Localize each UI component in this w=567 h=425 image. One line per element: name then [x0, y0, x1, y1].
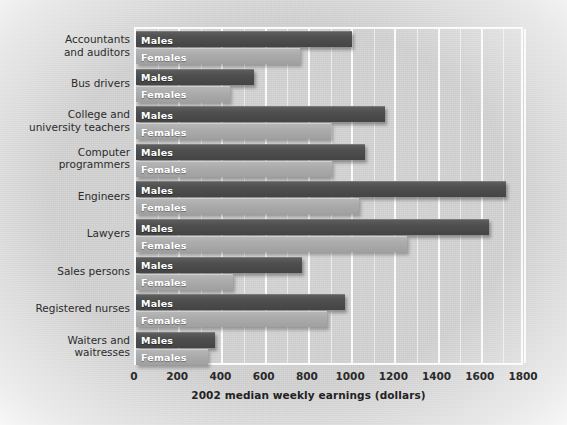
bar-rect-male: Males: [136, 144, 365, 160]
y-axis-label-2: College anduniversity teachers: [2, 108, 130, 133]
x-axis-title: 2002 median weekly earnings (dollars): [0, 389, 567, 401]
bar-series-label: Males: [141, 72, 173, 83]
y-axis-label-line: Accountants: [2, 33, 130, 46]
bar-series-label: Males: [141, 222, 173, 233]
bar-male: Males: [136, 181, 506, 197]
bar-rect-female: Females: [136, 236, 407, 252]
y-axis-label-line: Bus drivers: [2, 77, 130, 90]
x-axis-title-text: 2002 median weekly earnings (dollars): [191, 389, 425, 401]
chart-figure: Accountantsand auditorsBus driversColleg…: [0, 0, 567, 425]
bar-series-label: Males: [141, 109, 173, 120]
bar-series-label: Females: [141, 51, 187, 62]
y-axis-category-labels: Accountantsand auditorsBus driversColleg…: [0, 27, 130, 365]
bar-male: Males: [136, 106, 385, 122]
y-axis-label-line: waitresses: [2, 346, 130, 359]
x-tick-1200: 1200: [379, 370, 408, 382]
plot-area: MalesFemalesMalesFemalesMalesFemalesMale…: [134, 27, 523, 365]
bar-rect-male: Males: [136, 31, 352, 47]
y-axis-label-8: Waiters andwaitresses: [2, 334, 130, 359]
bar-group: MalesFemales: [136, 254, 521, 292]
bar-female: Females: [136, 86, 230, 102]
gridline-major: [524, 29, 526, 363]
bar-female: Females: [136, 311, 327, 327]
bar-series-label: Males: [141, 297, 173, 308]
bar-series-label: Females: [141, 89, 187, 100]
x-axis-tick-labels: 020040060080010001200140016001800: [0, 370, 567, 386]
bar-rect-male: Males: [136, 294, 345, 310]
bar-male: Males: [136, 69, 254, 85]
bar-female: Females: [136, 236, 407, 252]
bar-rect-male: Males: [136, 332, 215, 348]
bar-group: MalesFemales: [136, 217, 521, 255]
y-axis-label-line: Sales persons: [2, 265, 130, 278]
y-axis-label-line: university teachers: [2, 121, 130, 134]
bar-rect-male: Males: [136, 219, 489, 235]
y-axis-label-4: Engineers: [2, 190, 130, 203]
bar-rect-female: Females: [136, 274, 233, 290]
bar-female: Females: [136, 48, 300, 64]
bar-female: Females: [136, 161, 332, 177]
bar-rect-female: Females: [136, 48, 300, 64]
bar-series-label: Females: [141, 352, 187, 363]
bar-group: MalesFemales: [136, 329, 521, 367]
y-axis-label-7: Registered nurses: [2, 302, 130, 315]
bar-group: MalesFemales: [136, 142, 521, 180]
bar-male: Males: [136, 294, 345, 310]
bar-series-label: Females: [141, 314, 187, 325]
bar-female: Females: [136, 198, 359, 214]
bar-rect-male: Males: [136, 106, 385, 122]
bar-group: MalesFemales: [136, 292, 521, 330]
y-axis-label-line: Registered nurses: [2, 302, 130, 315]
x-tick-400: 400: [209, 370, 231, 382]
y-axis-label-line: Waiters and: [2, 334, 130, 347]
bar-female: Females: [136, 349, 208, 365]
bar-series-label: Females: [141, 201, 187, 212]
y-axis-label-5: Lawyers: [2, 227, 130, 240]
y-axis-label-line: College and: [2, 108, 130, 121]
y-axis-label-line: Engineers: [2, 190, 130, 203]
bar-series-label: Females: [141, 126, 187, 137]
bar-rect-male: Males: [136, 257, 302, 273]
y-axis-label-1: Bus drivers: [2, 77, 130, 90]
y-axis-label-6: Sales persons: [2, 265, 130, 278]
bar-series-label: Males: [141, 184, 173, 195]
bar-male: Males: [136, 31, 352, 47]
x-tick-1400: 1400: [422, 370, 451, 382]
y-axis-label-line: Computer: [2, 146, 130, 159]
x-tick-1000: 1000: [335, 370, 364, 382]
bar-male: Males: [136, 332, 215, 348]
x-tick-600: 600: [253, 370, 275, 382]
x-tick-800: 800: [296, 370, 318, 382]
bar-male: Males: [136, 257, 302, 273]
y-axis-label-line: programmers: [2, 158, 130, 171]
x-tick-1800: 1800: [508, 370, 537, 382]
x-tick-1600: 1600: [465, 370, 494, 382]
y-axis-label-0: Accountantsand auditors: [2, 33, 130, 58]
bar-group: MalesFemales: [136, 104, 521, 142]
bar-group: MalesFemales: [136, 179, 521, 217]
bar-rect-female: Females: [136, 123, 331, 139]
bar-rect-male: Males: [136, 69, 254, 85]
bar-group: MalesFemales: [136, 29, 521, 67]
bar-series-label: Males: [141, 147, 173, 158]
bar-series-label: Males: [141, 260, 173, 271]
bar-rect-female: Females: [136, 198, 359, 214]
bar-rect-female: Females: [136, 349, 208, 365]
x-tick-200: 200: [166, 370, 188, 382]
bar-series-label: Females: [141, 164, 187, 175]
bar-series-label: Males: [141, 34, 173, 45]
bar-rect-male: Males: [136, 181, 506, 197]
x-tick-0: 0: [130, 370, 137, 382]
bar-female: Females: [136, 274, 233, 290]
bar-female: Females: [136, 123, 331, 139]
y-axis-label-3: Computerprogrammers: [2, 146, 130, 171]
bar-rect-female: Females: [136, 161, 332, 177]
y-axis-label-line: Lawyers: [2, 227, 130, 240]
bar-series-label: Females: [141, 239, 187, 250]
bar-male: Males: [136, 144, 365, 160]
y-axis-label-line: and auditors: [2, 46, 130, 59]
bar-rect-female: Females: [136, 86, 230, 102]
bar-male: Males: [136, 219, 489, 235]
bar-series-label: Females: [141, 277, 187, 288]
bar-series-label: Males: [141, 335, 173, 346]
